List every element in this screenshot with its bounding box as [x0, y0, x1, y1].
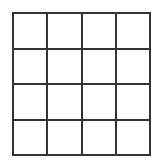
grid-cell-r4-c3 — [83, 121, 117, 157]
grid-cell-r2-c3 — [83, 50, 117, 86]
grid-cell-r2-c2 — [48, 50, 82, 86]
grid-cell-r1-c2 — [48, 14, 82, 50]
grid-cell-r3-c1 — [14, 85, 48, 121]
grid-cell-r4-c2 — [48, 121, 82, 157]
grid-cell-r2-c4 — [117, 50, 151, 86]
grid-cell-r2-c1 — [14, 50, 48, 86]
grid-4x4 — [12, 12, 151, 156]
grid-cell-r4-c4 — [117, 121, 151, 157]
grid-cell-r1-c3 — [83, 14, 117, 50]
grid-cell-r1-c1 — [14, 14, 48, 50]
grid-cell-r4-c1 — [14, 121, 48, 157]
canvas — [0, 0, 158, 164]
grid-cell-r1-c4 — [117, 14, 151, 50]
grid-cell-r3-c3 — [83, 85, 117, 121]
grid-cell-r3-c4 — [117, 85, 151, 121]
grid-cell-r3-c2 — [48, 85, 82, 121]
